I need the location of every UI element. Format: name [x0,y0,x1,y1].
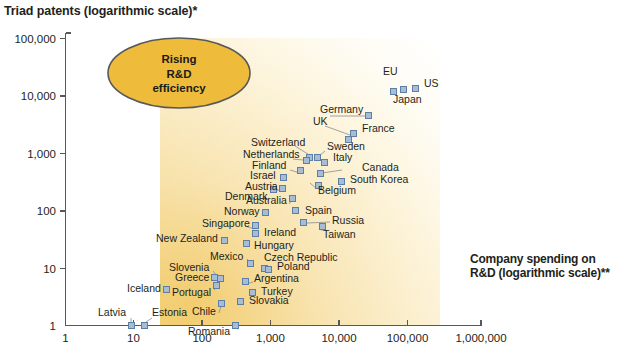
x-tick-label: 1 [62,332,68,344]
data-point-label: New Zealand [156,233,218,244]
data-point-label: Argentina [254,273,299,284]
data-point-label: Greece [175,272,209,283]
data-point-label: Belgium [318,185,356,196]
callout-line-1: Rising [129,52,229,67]
data-marker [213,282,220,289]
data-marker [317,170,324,177]
data-point-label: Slovakia [249,295,289,306]
data-point-label: South Korea [350,174,408,185]
data-point-label: Mexico [210,251,243,262]
data-marker [297,167,304,174]
data-marker [314,154,321,161]
data-marker [242,278,249,285]
data-point-label: Norway [224,206,260,217]
callout-line-2: R&D [129,67,229,82]
data-marker [218,300,225,307]
data-marker [400,86,407,93]
data-marker [279,185,286,192]
data-marker [412,85,419,92]
data-marker [141,322,148,329]
y-tick-label: 10 [0,263,56,275]
data-point-label: Hungary [254,240,294,251]
callout-label: Rising R&D efficiency [129,52,229,96]
data-point-label: Sweden [327,141,365,152]
data-marker [232,322,239,329]
data-marker [128,322,135,329]
data-point-label: UK [313,116,328,127]
data-point-label: Latvia [98,307,126,318]
data-point-label: Germany [320,104,363,115]
data-point-label: Japan [393,94,422,105]
y-tick-label: 10,000 [0,90,56,102]
x-tick-label: 1,000,000 [455,332,506,344]
data-point-label: Iceland [127,283,161,294]
x-tick-label: 10 [127,332,140,344]
data-point-label: Israel [250,170,276,181]
data-point-label: Poland [277,261,310,272]
callout-line-3: efficiency [129,81,229,96]
data-marker [300,219,307,226]
data-point-label: Chile [192,306,216,317]
x-tick-label: 10,000 [321,332,356,344]
y-tick-label: 100 [0,205,56,217]
x-tick-label: 100,000 [387,332,429,344]
x-tick-label: 1,000 [256,332,285,344]
y-tick-label: 1,000 [0,148,56,160]
y-axis-ticks [60,39,66,269]
data-marker [289,195,296,202]
data-marker [243,240,250,247]
data-point-label: Netherlands [243,149,300,160]
data-point-label: Canada [362,162,399,173]
data-point-label: Romania [188,326,230,337]
data-marker [247,260,254,267]
data-point-label: Russia [332,215,364,226]
data-marker [217,275,224,282]
data-marker [252,222,259,229]
data-point-label: Estonia [152,307,187,318]
y-tick-label: 1 [0,320,56,332]
data-marker [262,209,269,216]
data-point-label: EU [383,66,398,77]
data-marker [280,174,287,181]
triad-patents-scatter-chart: Triad patents (logarithmic scale)* Compa… [0,0,625,360]
data-marker [321,159,328,166]
data-marker [237,298,244,305]
data-marker [221,237,228,244]
y-tick-label: 100,000 [0,33,56,45]
data-point-label: Portugal [172,287,211,298]
data-point-label: US [424,78,439,89]
data-point-label: Taiwan [323,229,356,240]
data-point-label: Switzerland [251,137,305,148]
data-marker [292,207,299,214]
plot-canvas [0,0,625,360]
data-point-label: Spain [305,205,332,216]
data-marker [365,112,372,119]
data-marker [252,230,259,237]
data-point-label: France [362,123,395,134]
data-point-label: Ireland [264,227,296,238]
data-point-label: Singapore [202,218,250,229]
data-point-label: Australia [246,195,287,206]
data-point-label: Italy [333,152,352,163]
data-marker [163,286,170,293]
data-marker [303,157,310,164]
